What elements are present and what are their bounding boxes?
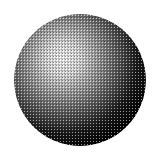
sphere-graphic xyxy=(0,0,152,158)
halftone-sphere-image xyxy=(0,0,152,158)
